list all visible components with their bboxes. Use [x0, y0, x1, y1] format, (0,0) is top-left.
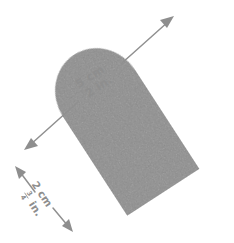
dimension-diagram: 5 cm 2 in. 2 cm 3 4 in. [0, 0, 234, 243]
figure-container: 5 cm 2 in. 2 cm 3 4 in. [0, 0, 234, 243]
